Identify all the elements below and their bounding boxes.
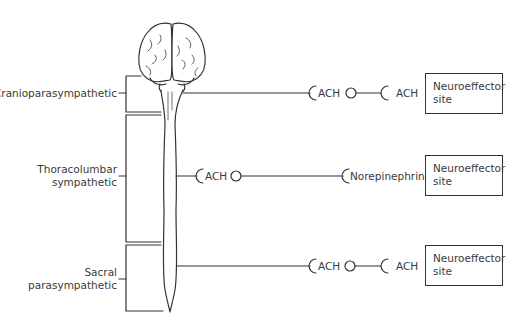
box-line: Neuroeffector [433,162,502,175]
label-line: parasympathetic [28,279,117,291]
cranio-post-transmitter: ACH [396,87,418,99]
bracket-sacral [126,245,163,311]
box-line: Neuroeffector [433,252,502,265]
label-sacral-parasympathetic: Sacral parasympathetic [28,266,117,292]
label-line: Cranioparasympathetic [0,87,117,99]
cranio-pre-transmitter: ACH [318,87,340,99]
sacral-post-transmitter: ACH [396,260,418,272]
label-cranioparasympathetic: Cranioparasympathetic [0,87,117,100]
label-line: Thoracolumbar [37,163,117,175]
box-line: site [433,265,502,278]
label-line: sympathetic [52,176,117,188]
label-line: Sacral [84,266,117,278]
label-thoracolumbar-sympathetic: Thoracolumbar sympathetic [37,163,117,189]
thoraco-neuroeffector-box: Neuroeffector site [425,155,503,196]
bracket-thoraco [126,115,161,242]
sacral-neuroeffector-box: Neuroeffector site [425,245,503,286]
thoraco-post-transmitter: Norepinephrine [350,170,431,182]
sacral-pre-transmitter: ACH [318,260,340,272]
thoraco-pre-transmitter: ACH [205,170,227,182]
box-line: site [433,93,502,106]
box-line: site [433,175,502,188]
brain-icon [139,23,205,92]
cranio-neuroeffector-box: Neuroeffector site [425,73,503,114]
box-line: Neuroeffector [433,80,502,93]
spinal-cord [161,90,183,312]
